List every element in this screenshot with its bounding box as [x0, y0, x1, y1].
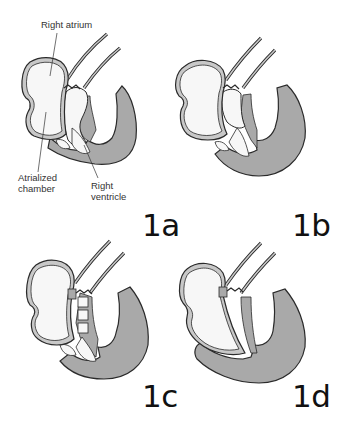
figure-label-1b: 1b — [292, 210, 330, 241]
label-atrialized-chamber-line2: chamber — [18, 183, 57, 194]
label-right-ventricle: Right ventricle — [91, 180, 126, 202]
figure-label-1a: 1a — [142, 210, 180, 241]
panel-1b — [171, 0, 342, 213]
figure-label-1d: 1d — [292, 381, 330, 412]
label-right-atrium: Right atrium — [41, 19, 92, 30]
panel-1a: Right atrium Atrialized chamber Right ve… — [0, 0, 171, 213]
label-right-ventricle-line1: Right — [91, 180, 126, 191]
label-right-ventricle-line2: ventricle — [91, 191, 126, 202]
figure-label-1c: 1c — [142, 381, 178, 412]
label-atrialized-chamber: Atrialized chamber — [18, 172, 57, 194]
heart-diagram-1b — [171, 0, 342, 213]
label-atrialized-chamber-line1: Atrialized — [18, 172, 57, 183]
